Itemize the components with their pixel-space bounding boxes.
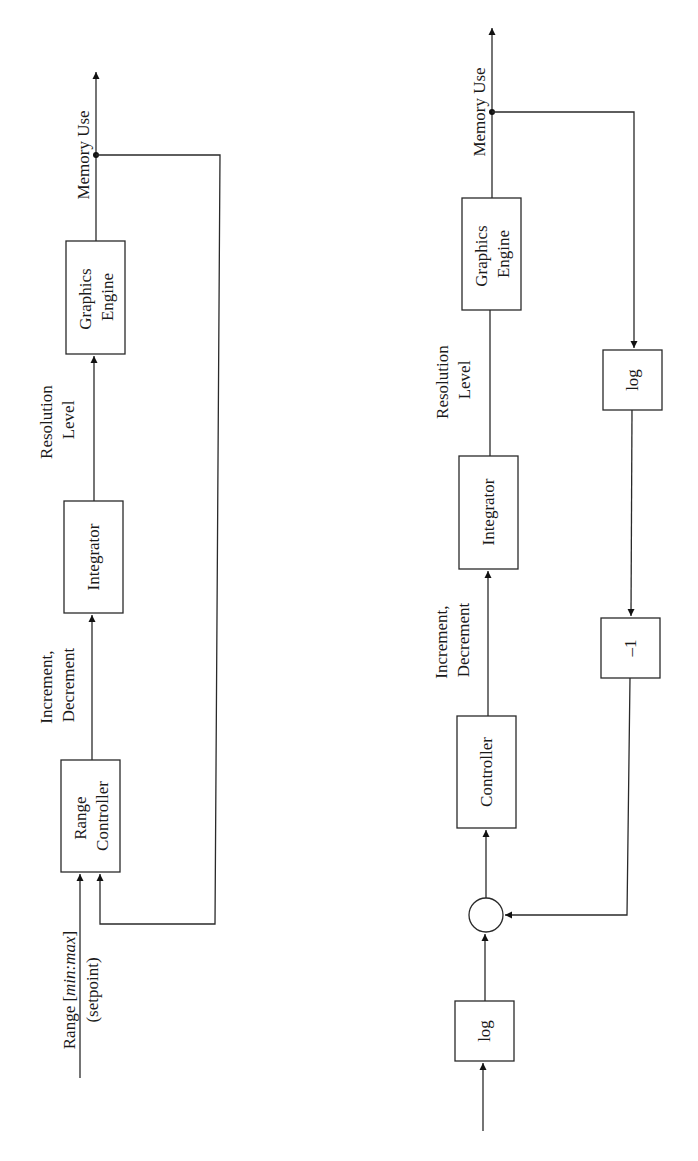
signal-label: Resolution — [433, 345, 452, 419]
svg-text:Increment, Decrement: Increment, Decrement — [432, 601, 473, 678]
graphics-engine-block: Graphics Engine — [462, 198, 521, 310]
log-to-negate-arrow — [631, 410, 632, 616]
signal-label: Level — [455, 360, 474, 399]
block-label: Engine — [98, 273, 117, 321]
block-label: log — [475, 1020, 494, 1042]
svg-text:Resolution Level: Resolution Level — [433, 341, 474, 419]
signal-label: Decrement — [454, 602, 473, 677]
svg-text:Increment, Decrement: Increment, Decrement — [37, 646, 78, 723]
integrator-block: Integrator — [459, 456, 518, 569]
block-label: Integrator — [479, 478, 498, 545]
memory-use-label: Memory Use — [74, 110, 93, 199]
memory-use-label: Memory Use — [470, 67, 489, 156]
graphics-engine-block: Graphics Engine — [66, 241, 125, 354]
block-diagrams: Graphics Engine Integrator Range Control… — [0, 0, 698, 1161]
signal-label: Level — [59, 400, 78, 439]
block-label: Graphics — [76, 268, 95, 329]
block-label: –1 — [621, 640, 640, 658]
log-feedback-block: log — [603, 350, 662, 410]
block-label: Controller — [93, 781, 112, 851]
block-label: Controller — [477, 737, 496, 807]
signal-label: Increment, — [432, 606, 451, 679]
block-label: Range — [71, 796, 90, 839]
setpoint-label: Range [min:max] — [60, 931, 79, 1050]
left-diagram: Graphics Engine Integrator Range Control… — [37, 72, 220, 1078]
log-input-block: log — [455, 1001, 514, 1061]
integrator-block: Integrator — [64, 501, 123, 613]
block-label: Integrator — [84, 523, 103, 590]
negate-block: –1 — [601, 618, 660, 678]
negate-to-sum-arrow — [505, 678, 630, 915]
range-controller-block: Range Controller — [61, 760, 120, 872]
setpoint-sublabel: (setpoint) — [83, 957, 102, 1022]
signal-label: Increment, — [37, 651, 56, 724]
svg-text:Resolution Level: Resolution Level — [37, 381, 78, 459]
controller-block: Controller — [457, 716, 516, 828]
block-label: log — [623, 369, 642, 391]
right-diagram: Graphics Engine Integrator Controller lo… — [432, 28, 662, 1131]
block-label: Graphics — [472, 225, 491, 286]
signal-label: Decrement — [59, 647, 78, 722]
signal-label: Resolution — [37, 385, 56, 459]
block-label: Engine — [494, 230, 513, 278]
summing-junction — [469, 898, 503, 932]
